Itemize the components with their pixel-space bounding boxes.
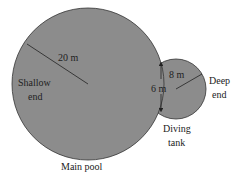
main-radius-label: 20 m (58, 52, 79, 63)
chord-label: 6 m (151, 83, 167, 94)
diving-tank-label-2: tank (168, 137, 185, 148)
shallow-end-label-1: Shallow (18, 77, 52, 88)
diving-tank-label-1: Diving (163, 123, 191, 134)
deep-end-label-1: Deep (209, 75, 230, 86)
shallow-end-label-2: end (28, 91, 42, 102)
pool-diagram: 20 m Shallow end Main pool 8 m 6 m Deep … (0, 0, 243, 174)
main-pool-label: Main pool (61, 161, 103, 172)
deep-end-label-2: end (212, 89, 226, 100)
tank-radius-label: 8 m (169, 69, 185, 80)
